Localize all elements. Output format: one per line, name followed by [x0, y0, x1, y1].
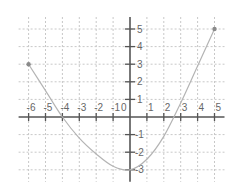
x-tick-label: -1 — [111, 102, 120, 113]
y-tick-label: 3 — [137, 59, 143, 70]
x-tick-label: 3 — [182, 102, 188, 113]
x-tick-label: -3 — [77, 102, 86, 113]
origin-label: 0 — [121, 102, 127, 113]
axes — [19, 17, 225, 182]
x-tick-label: 4 — [199, 102, 205, 113]
x-tick-label: -4 — [60, 102, 69, 113]
y-tick-label: 1 — [137, 94, 143, 105]
x-tick-label: -6 — [27, 102, 36, 113]
function-graph: -6-5-4-3-2-112345 -3-2-112345 0 — [0, 0, 237, 190]
x-tick-label: 1 — [148, 102, 154, 113]
y-tick-label: 2 — [137, 76, 143, 87]
x-tick-label: 2 — [165, 102, 171, 113]
y-tick-label: -2 — [135, 147, 144, 158]
y-tick-label: 5 — [137, 24, 143, 35]
endpoint-dot — [212, 27, 216, 31]
endpoint-dot — [26, 62, 30, 66]
x-tick-label: -2 — [94, 102, 103, 113]
x-tick-label: 5 — [216, 102, 222, 113]
x-tick-label: -5 — [44, 102, 53, 113]
grid-lines — [19, 17, 225, 182]
y-tick-label: 4 — [137, 41, 143, 52]
y-tick-label: -1 — [135, 129, 144, 140]
